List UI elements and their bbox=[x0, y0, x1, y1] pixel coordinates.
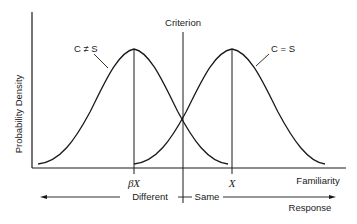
curve-c-equal-s bbox=[134, 49, 325, 164]
curve-c-not-equal-s bbox=[38, 49, 228, 164]
arrowhead-left-icon bbox=[40, 195, 47, 199]
x-label: X bbox=[228, 177, 237, 189]
y-axis-label: Probability Density bbox=[13, 74, 24, 153]
beta-x-label: βX bbox=[127, 177, 141, 189]
response-different-label: Different bbox=[132, 191, 168, 202]
curve-label-c-not-equal-s: C ≠ S bbox=[74, 43, 98, 54]
response-title: Response bbox=[289, 202, 332, 213]
arrowhead-right-icon bbox=[329, 195, 336, 199]
response-same-label: Same bbox=[195, 191, 220, 202]
signal-detection-diagram: Criterion C ≠ S C = S Probability Densit… bbox=[0, 0, 357, 224]
criterion-label: Criterion bbox=[165, 17, 201, 28]
x-axis-label: Familiarity bbox=[296, 175, 340, 186]
leader-line-left bbox=[94, 54, 108, 68]
leader-line-right bbox=[256, 54, 269, 66]
curve-label-c-equal-s: C = S bbox=[271, 43, 295, 54]
